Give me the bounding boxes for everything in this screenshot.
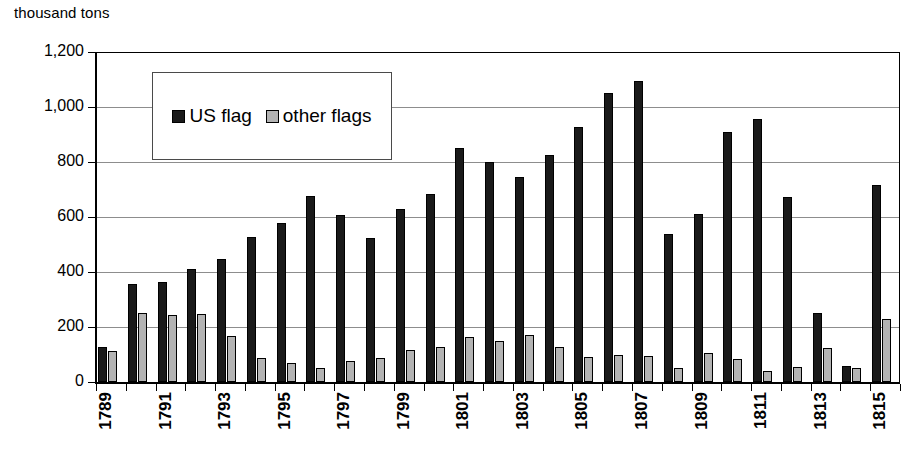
x-tick: [275, 384, 276, 391]
bar-us-flag: [604, 93, 613, 382]
bar-group: [483, 52, 513, 382]
legend-item-us-flag: US flag: [172, 105, 251, 127]
bar-us-flag: [396, 209, 405, 382]
bar-group: [543, 52, 573, 382]
x-tick: [602, 384, 603, 391]
bar-other-flags: [644, 356, 653, 382]
x-tick: [632, 384, 633, 391]
x-tick: [126, 384, 127, 391]
x-tick: [900, 384, 901, 391]
bar-group: [751, 52, 781, 382]
y-axis-labels: 02004006008001,0001,200: [0, 0, 84, 452]
bar-group: [662, 52, 692, 382]
x-axis-label-1789: 1789: [97, 392, 114, 430]
x-tick: [156, 384, 157, 391]
bar-group: [781, 52, 811, 382]
legend: US flag other flags: [152, 72, 392, 160]
x-axis-label-1801: 1801: [454, 392, 471, 430]
bar-other-flags: [555, 347, 564, 382]
bar-us-flag: [634, 81, 643, 382]
bar-us-flag: [217, 259, 226, 382]
bar-other-flags: [436, 347, 445, 382]
y-axis-label-400: 400: [10, 262, 84, 280]
x-tick: [364, 384, 365, 391]
x-tick: [424, 384, 425, 391]
dark-square-icon: [172, 110, 185, 123]
bar-us-flag: [872, 185, 881, 382]
bar-us-flag: [366, 238, 375, 382]
bar-other-flags: [704, 353, 713, 382]
x-tick: [483, 384, 484, 391]
y-tick-1200: [88, 52, 97, 53]
x-axis-label-1791: 1791: [157, 392, 174, 430]
x-tick: [751, 384, 752, 391]
bar-other-flags: [168, 315, 177, 382]
x-tick: [811, 384, 812, 391]
x-tick: [96, 384, 97, 391]
bar-other-flags: [495, 341, 504, 382]
bar-us-flag: [128, 284, 137, 382]
x-axis-label-1809: 1809: [693, 392, 710, 430]
bar-other-flags: [197, 314, 206, 382]
bar-group: [424, 52, 454, 382]
x-tick: [572, 384, 573, 391]
x-axis-label-1811: 1811: [752, 392, 769, 429]
bar-group: [632, 52, 662, 382]
gray-square-icon: [266, 110, 279, 123]
legend-label-us-flag: US flag: [189, 105, 251, 127]
bar-us-flag: [277, 223, 286, 383]
bar-other-flags: [108, 351, 117, 382]
bar-other-flags: [406, 350, 415, 382]
bar-us-flag: [247, 237, 256, 382]
bar-group: [572, 52, 602, 382]
bar-other-flags: [584, 357, 593, 382]
bar-group: [96, 52, 126, 382]
x-tick: [453, 384, 454, 391]
bar-other-flags: [257, 358, 266, 382]
bar-group: [513, 52, 543, 382]
bar-other-flags: [227, 336, 236, 382]
bar-group: [811, 52, 841, 382]
x-tick: [840, 384, 841, 391]
x-axis-label-1813: 1813: [812, 392, 829, 430]
x-tick: [215, 384, 216, 391]
bar-us-flag: [426, 194, 435, 382]
bar-us-flag: [485, 162, 494, 382]
bar-us-flag: [694, 214, 703, 382]
x-tick: [513, 384, 514, 391]
bar-other-flags: [823, 348, 832, 382]
x-tick: [692, 384, 693, 391]
bar-us-flag: [187, 269, 196, 382]
bar-us-flag: [783, 197, 792, 382]
bar-other-flags: [882, 319, 891, 382]
y-tick-0: [88, 382, 97, 383]
y-tick-1000: [88, 107, 97, 108]
bar-us-flag: [574, 127, 583, 382]
x-axis-ticks: [96, 384, 900, 392]
legend-label-other-flags: other flags: [283, 105, 372, 127]
bar-other-flags: [793, 367, 802, 382]
bar-group: [870, 52, 900, 382]
bar-us-flag: [158, 282, 167, 382]
x-tick: [304, 384, 305, 391]
bar-us-flag: [545, 155, 554, 382]
x-axis-label-1807: 1807: [633, 392, 650, 430]
bar-group: [602, 52, 632, 382]
x-axis-label-1795: 1795: [276, 392, 293, 430]
bar-other-flags: [674, 368, 683, 382]
bar-us-flag: [723, 132, 732, 382]
bar-us-flag: [98, 347, 107, 382]
legend-item-other-flags: other flags: [266, 105, 372, 127]
y-axis-label-0: 0: [10, 372, 84, 390]
x-axis-label-1799: 1799: [395, 392, 412, 430]
x-tick: [721, 384, 722, 391]
bar-group: [840, 52, 870, 382]
bar-us-flag: [515, 177, 524, 382]
y-axis-label-600: 600: [10, 207, 84, 225]
bar-other-flags: [525, 335, 534, 382]
y-axis-label-800: 800: [10, 152, 84, 170]
bar-other-flags: [763, 371, 772, 382]
x-axis-label-1815: 1815: [871, 392, 888, 430]
x-tick: [543, 384, 544, 391]
x-tick: [662, 384, 663, 391]
